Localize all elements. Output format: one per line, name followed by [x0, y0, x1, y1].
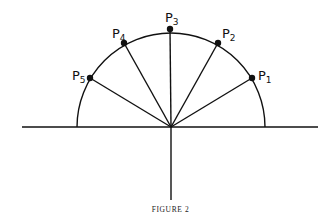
ray-p2 — [171, 43, 218, 127]
ray-p4 — [124, 43, 171, 127]
label-p4: P4 — [112, 26, 126, 43]
ray-p1 — [171, 78, 252, 127]
label-p5: P5 — [72, 68, 86, 85]
point-p2 — [215, 40, 221, 46]
label-p2: P2 — [222, 26, 236, 43]
semicircle-diagram: P1P2P3P4P5 — [0, 0, 330, 219]
point-p1 — [249, 75, 255, 81]
point-p5 — [87, 75, 93, 81]
ray-p5 — [90, 78, 171, 127]
label-p1: P1 — [258, 68, 272, 85]
figure-caption: FIGURE 2 — [0, 205, 330, 214]
ray-p3 — [170, 29, 171, 127]
label-p3: P3 — [165, 10, 179, 27]
